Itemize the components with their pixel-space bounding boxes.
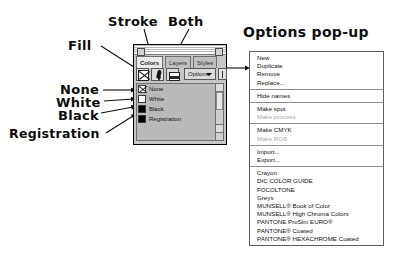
list-item[interactable]: None	[137, 84, 215, 94]
swatches-palette-window[interactable]: Colors Layers Styles Options None	[133, 44, 227, 145]
swatch-black-icon	[138, 105, 146, 113]
menu-item-dic-color-guide[interactable]: DIC COLOR GUIDE	[250, 177, 383, 185]
menu-item-import[interactable]: Import...	[250, 148, 383, 156]
menu-item-focoltone[interactable]: FOCOLTONE	[250, 186, 383, 194]
scroll-down-icon[interactable]	[216, 124, 223, 132]
chevron-down-icon	[206, 73, 212, 76]
callout-both: Both	[168, 14, 204, 29]
palette-menu-button[interactable]	[218, 68, 227, 80]
callout-black: Black	[58, 108, 99, 123]
list-item[interactable]: White	[137, 94, 215, 104]
menu-item-munsell-high-chroma[interactable]: MUNSELL® High Chroma Colors	[250, 210, 383, 218]
palette-tabs[interactable]: Colors Layers Styles	[136, 56, 217, 68]
menu-item-replace[interactable]: Replace...	[250, 79, 383, 87]
callout-stroke: Stroke	[108, 14, 158, 29]
menu-item-make-rgb: Make RGB	[250, 135, 383, 143]
menu-item-make-process: Make process	[250, 113, 383, 121]
menu-group-view: Hide names	[250, 90, 383, 103]
menu-item-pantone-prosim-euro[interactable]: PANTONE ProSim EURO®	[250, 218, 383, 226]
tab-layers[interactable]: Layers	[165, 56, 191, 68]
pen-icon	[154, 70, 163, 81]
swatch-label: Registration	[149, 115, 181, 123]
vertical-scrollbar[interactable]	[215, 83, 224, 141]
scrollbar-thumb[interactable]	[216, 92, 223, 110]
zoom-box-icon[interactable]	[215, 48, 223, 56]
menu-item-pantone-hexachrome-coated[interactable]: PANTONE® HEXACHROME Coated	[250, 235, 383, 243]
scroll-up-icon[interactable]	[216, 84, 223, 92]
palette-toolbar: Options	[136, 68, 224, 82]
both-indicator-button[interactable]	[166, 68, 179, 81]
close-icon[interactable]	[137, 48, 145, 56]
stroke-indicator-button[interactable]	[151, 68, 164, 81]
swatch-none-icon	[138, 85, 146, 93]
resize-handle-icon[interactable]	[216, 132, 223, 140]
menu-item-munsell-book-of-color[interactable]: MUNSELL® Book of Color	[250, 202, 383, 210]
swatch-label: White	[149, 95, 164, 103]
popup-title: Options pop-up	[243, 24, 369, 40]
fill-indicator-button[interactable]	[136, 68, 149, 81]
menu-item-duplicate[interactable]: Duplicate	[250, 62, 383, 70]
list-item[interactable]: Registration	[137, 114, 215, 124]
swatch-label: Black	[149, 105, 164, 113]
menu-item-remove[interactable]: Remove	[250, 70, 383, 78]
options-dropdown[interactable]: Options	[184, 68, 216, 80]
swatch-list[interactable]: None White Black Registration	[136, 83, 216, 141]
menu-item-make-cmyk[interactable]: Make CMYK	[250, 126, 383, 134]
menu-item-hide-names[interactable]: Hide names	[250, 92, 383, 100]
swatch-label: None	[149, 85, 163, 93]
swatch-registration-icon	[138, 115, 146, 123]
tab-colors[interactable]: Colors	[136, 56, 163, 68]
menu-item-new[interactable]: New	[250, 54, 383, 62]
menu-item-export[interactable]: Export...	[250, 156, 383, 164]
annotated-diagram: Fill Stroke Both None White Black Regist…	[0, 0, 393, 274]
menu-group-colormode: Make CMYK Make RGB	[250, 124, 383, 145]
list-item[interactable]: Black	[137, 104, 215, 114]
menu-item-make-spot[interactable]: Make spot	[250, 105, 383, 113]
menu-group-io: Import... Export...	[250, 146, 383, 167]
menu-group-libraries: Crayon DIC COLOR GUIDE FOCOLTONE Greys M…	[250, 167, 383, 245]
callout-fill: Fill	[68, 38, 91, 53]
fill-and-stroke-icon	[169, 72, 180, 81]
none-icon	[138, 70, 149, 81]
menu-item-greys[interactable]: Greys	[250, 194, 383, 202]
tab-styles[interactable]: Styles	[193, 56, 217, 68]
menu-group-edit: New Duplicate Remove Replace...	[250, 52, 383, 90]
palette-titlebar[interactable]	[135, 46, 225, 55]
options-popup-menu[interactable]: New Duplicate Remove Replace... Hide nam…	[249, 51, 384, 246]
menu-group-spot: Make spot Make process	[250, 103, 383, 124]
menu-item-pantone-coated[interactable]: PANTONE® Coated	[250, 227, 383, 235]
menu-item-crayon[interactable]: Crayon	[250, 169, 383, 177]
swatch-white-icon	[138, 95, 146, 103]
callout-registration: Registration	[9, 126, 100, 141]
